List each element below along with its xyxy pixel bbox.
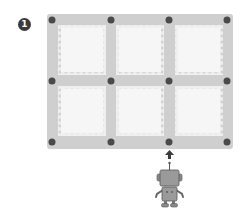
grid-cell: [116, 86, 164, 136]
grid-cell: [58, 86, 106, 136]
grid-node: [224, 139, 231, 146]
grid-node: [108, 17, 115, 24]
grid-node: [49, 139, 56, 146]
grid-node: [49, 78, 56, 85]
grid-node: [166, 17, 173, 24]
grid-node: [166, 139, 173, 146]
arrow-up-icon: [165, 150, 174, 159]
grid-cell: [175, 25, 223, 75]
robot-icon: [156, 162, 183, 207]
robot-grid-diagram: [0, 0, 249, 222]
grid-node: [166, 78, 173, 85]
grid-node: [49, 17, 56, 24]
grid-cell: [58, 25, 106, 75]
grid-node: [108, 78, 115, 85]
grid-node: [224, 78, 231, 85]
grid-cell: [116, 25, 164, 75]
grid-node: [108, 139, 115, 146]
grid-node: [224, 17, 231, 24]
grid-cell: [175, 86, 223, 136]
